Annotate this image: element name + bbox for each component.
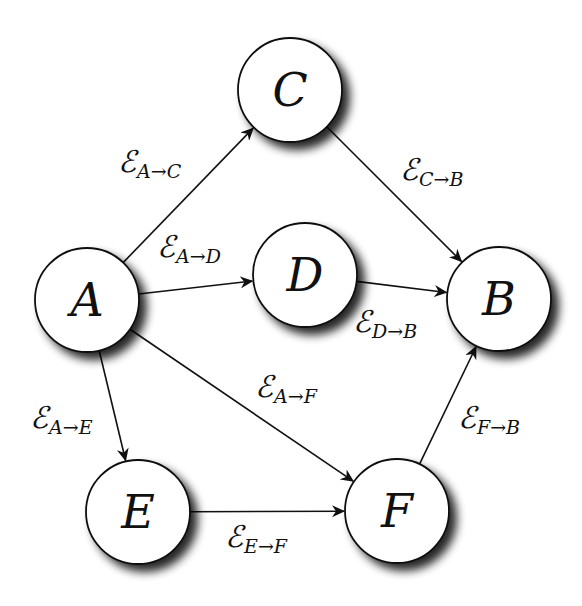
edge-label-a-to-d: ℰA→D <box>157 229 221 267</box>
edge-sub-arrow: → <box>490 416 506 438</box>
edge-sub-to: B <box>505 416 520 438</box>
edge-sub-from: A <box>174 245 190 267</box>
edge-symbol: ℰ <box>458 400 479 435</box>
edge-sub-arrow: → <box>434 168 450 190</box>
edge-sub-from: A <box>47 416 63 438</box>
edge-a-to-d <box>139 281 253 294</box>
edge-sub-to: C <box>167 160 182 182</box>
edge-sub-from: D <box>371 320 387 342</box>
edge-sub-arrow: → <box>151 160 167 182</box>
edge-sub-from: E <box>243 535 258 557</box>
node-f: F <box>345 459 449 563</box>
node-label: E <box>120 485 155 539</box>
edge-sub-to: E <box>78 416 93 438</box>
edge-symbol: ℰ <box>118 144 139 179</box>
edge-sub-to: F <box>273 535 288 557</box>
edge-label-a-to-e: ℰA→E <box>30 400 93 438</box>
edge-label-f-to-b: ℰF→B <box>458 400 520 438</box>
edge-sub-from: A <box>272 385 288 407</box>
edge-a-to-e <box>99 351 125 461</box>
edge-sub-arrow: → <box>63 416 79 438</box>
edge-sub-arrow: → <box>387 320 403 342</box>
edge-label-a-to-f: ℰA→F <box>255 369 318 407</box>
edge-sub-from: F <box>476 416 491 438</box>
node-c: C <box>238 38 342 142</box>
edge-sub-from: A <box>135 160 151 182</box>
edge-sub-arrow: → <box>190 245 206 267</box>
edge-a-to-f <box>130 329 353 481</box>
edge-sub-to: B <box>402 320 417 342</box>
edge-label-d-to-b: ℰD→B <box>353 304 417 342</box>
edge-sub-to: D <box>205 245 221 267</box>
edge-symbol: ℰ <box>225 519 246 554</box>
node-b: B <box>447 247 551 351</box>
node-label: F <box>380 484 415 538</box>
edge-symbol: ℰ <box>157 229 178 264</box>
edge-label-c-to-b: ℰC→B <box>400 152 463 190</box>
edge-sub-arrow: → <box>258 535 274 557</box>
node-label: D <box>286 248 324 302</box>
node-label: A <box>66 273 103 327</box>
nodes-layer: ABCDEF <box>35 38 551 564</box>
node-label: B <box>481 272 516 326</box>
edge-symbol: ℰ <box>400 152 421 187</box>
edge-sub-from: C <box>419 168 434 190</box>
node-d: D <box>253 223 357 327</box>
directed-graph-diagram: ABCDEF ℰA→CℰC→BℰA→DℰD→BℰA→FℰA→EℰF→BℰE→F <box>0 0 582 606</box>
node-e: E <box>86 460 190 564</box>
edge-symbol: ℰ <box>30 400 51 435</box>
edge-sub-arrow: → <box>288 385 304 407</box>
edge-d-to-b <box>357 281 447 292</box>
edge-c-to-b <box>327 127 462 262</box>
edge-sub-to: F <box>303 385 318 407</box>
node-label: C <box>272 63 307 117</box>
edge-a-to-c <box>123 128 253 263</box>
edge-symbol: ℰ <box>255 369 276 404</box>
edge-symbol: ℰ <box>353 304 374 339</box>
edge-e-to-f <box>190 511 344 512</box>
edge-label-e-to-f: ℰE→F <box>225 519 288 557</box>
edge-label-a-to-c: ℰA→C <box>118 144 182 182</box>
node-a: A <box>35 248 139 352</box>
edge-sub-to: B <box>448 168 463 190</box>
